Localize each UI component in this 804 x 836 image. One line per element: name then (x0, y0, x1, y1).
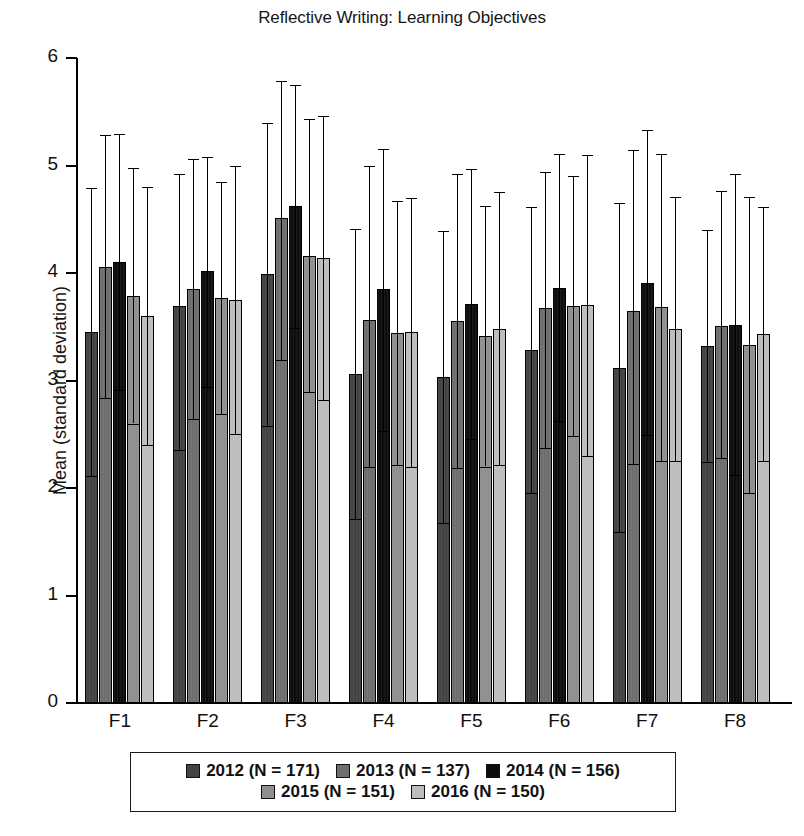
chart-figure: Reflective Writing: Learning Objectives … (0, 0, 804, 836)
error-bar-cap-lower (216, 414, 227, 415)
error-bar-cap-upper (216, 182, 227, 183)
error-bar-cap-upper (142, 187, 153, 188)
x-axis-tick-label: F1 (75, 710, 165, 732)
error-bar-cap-lower (452, 468, 463, 469)
error-bar-cap-lower (188, 419, 199, 420)
error-bar-cap-upper (276, 81, 287, 82)
error-bar-cap-lower (174, 450, 185, 451)
legend-label: 2016 (N = 150) (431, 781, 545, 802)
error-bar-cap-upper (262, 123, 273, 124)
error-bar-cap-lower (568, 436, 579, 437)
error-bar-line (675, 197, 676, 461)
y-axis-tick-label: 3 (12, 368, 58, 390)
error-bar-cap-lower (86, 476, 97, 477)
error-bar-line (267, 123, 268, 426)
error-bar-cap-upper (452, 174, 463, 175)
error-bar-cap-upper (758, 207, 769, 208)
error-bar-line (323, 116, 324, 400)
error-bar-line (295, 85, 296, 328)
error-bar-cap-lower (128, 424, 139, 425)
error-bar-cap-lower (406, 467, 417, 468)
error-bar-cap-upper (392, 201, 403, 202)
error-bar-cap-upper (188, 159, 199, 160)
error-bar-cap-upper (128, 168, 139, 169)
y-axis-tick-label: 4 (12, 260, 58, 282)
error-bar-cap-upper (526, 207, 537, 208)
bar-group (521, 58, 609, 703)
error-bar-line (471, 169, 472, 439)
error-bar-line (559, 154, 560, 422)
error-bar-line (735, 174, 736, 475)
y-axis-tick-label: 1 (12, 583, 58, 605)
legend-item: 2015 (N = 151) (261, 781, 395, 802)
y-axis-tick (66, 57, 77, 59)
error-bar-cap-lower (730, 475, 741, 476)
error-bar-cap-upper (318, 116, 329, 117)
error-bar-line (281, 81, 282, 361)
legend-row-2: 2015 (N = 151)2016 (N = 150) (137, 781, 669, 802)
y-axis-tick-label: 0 (12, 690, 58, 712)
error-bar-cap-upper (86, 188, 97, 189)
y-axis-tick-label: 2 (12, 475, 58, 497)
error-bar-cap-lower (304, 392, 315, 393)
chart-legend: 2012 (N = 171)2013 (N = 137)2014 (N = 15… (130, 752, 676, 812)
error-bar-cap-upper (670, 197, 681, 198)
error-bar-line (531, 207, 532, 493)
bar-group (346, 58, 434, 703)
error-bar-cap-lower (114, 390, 125, 391)
error-bar-line (485, 206, 486, 466)
error-bar-line (369, 166, 370, 467)
error-bar-line (397, 201, 398, 465)
error-bar-cap-lower (378, 431, 389, 432)
error-bar-cap-lower (142, 445, 153, 446)
error-bar-cap-upper (494, 192, 505, 193)
error-bar-cap-upper (378, 149, 389, 150)
error-bar-cap-lower (758, 461, 769, 462)
bar-group (258, 58, 346, 703)
error-bar-cap-lower (670, 461, 681, 462)
error-bar-line (545, 172, 546, 448)
error-bar-cap-upper (582, 155, 593, 156)
error-bar-cap-lower (466, 439, 477, 440)
error-bar-cap-upper (174, 174, 185, 175)
error-bar-cap-lower (656, 461, 667, 462)
x-axis-tick-label: F7 (602, 710, 692, 732)
error-bar-line (383, 149, 384, 431)
y-axis-tick (66, 487, 77, 489)
error-bar-cap-lower (628, 464, 639, 465)
error-bar-line (721, 191, 722, 458)
x-axis-tick-label: F6 (514, 710, 604, 732)
error-bar-cap-lower (350, 519, 361, 520)
bar-group (609, 58, 697, 703)
error-bar-cap-upper (290, 85, 301, 86)
error-bar-cap-upper (730, 174, 741, 175)
error-bar-line (133, 168, 134, 424)
error-bar-line (147, 187, 148, 445)
error-bar-line (207, 157, 208, 387)
error-bar-cap-upper (364, 166, 375, 167)
legend-swatch-icon (336, 764, 350, 778)
error-bar-cap-lower (438, 523, 449, 524)
error-bar-line (587, 155, 588, 456)
error-bar-line (619, 203, 620, 532)
error-bar-cap-lower (744, 493, 755, 494)
error-bar-line (647, 130, 648, 435)
error-bar-line (499, 192, 500, 465)
error-bar-cap-upper (406, 198, 417, 199)
error-bar-cap-upper (614, 203, 625, 204)
x-axis-tick-label: F3 (251, 710, 341, 732)
y-axis-tick (66, 165, 77, 167)
error-bar-line (193, 159, 194, 419)
y-axis-tick (66, 595, 77, 597)
error-bar-line (221, 182, 222, 414)
error-bar-cap-upper (656, 154, 667, 155)
error-bar-line (633, 150, 634, 464)
x-axis-tick-label: F5 (426, 710, 516, 732)
error-bar-line (573, 176, 574, 436)
legend-swatch-icon (186, 764, 200, 778)
error-bar-line (355, 229, 356, 519)
error-bar-cap-upper (642, 130, 653, 131)
error-bar-cap-lower (526, 493, 537, 494)
error-bar-cap-lower (480, 467, 491, 468)
y-axis-tick (66, 380, 77, 382)
